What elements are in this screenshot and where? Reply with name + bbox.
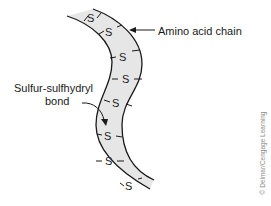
- diagram-canvas: S S S S S S S S Amino acid chain Sulfur-…: [0, 0, 271, 206]
- amino-acid-chain-callout: Amino acid chain: [129, 25, 242, 37]
- arrow-left-icon: [129, 27, 136, 33]
- bond-label-line2: bond: [45, 95, 69, 107]
- copyright-credit: © Delmar/Cengage Learning: [257, 108, 267, 198]
- sulfur-label: S: [125, 180, 132, 192]
- sulfur-label: S: [122, 73, 129, 85]
- amino-acid-chain-diagram: S S S S S S S S Amino acid chain Sulfur-…: [0, 0, 271, 206]
- credit-text: © Delmar/Cengage Learning: [259, 112, 266, 195]
- sulfur-label: S: [105, 155, 112, 167]
- sulfur-label: S: [119, 51, 126, 63]
- amino-acid-chain-label: Amino acid chain: [158, 25, 242, 37]
- bond-label-line1: Sulfur-sulfhydryl: [14, 82, 93, 94]
- sulfur-label: S: [87, 12, 94, 24]
- sulfur-label: S: [105, 26, 112, 38]
- sulfur-label: S: [104, 130, 111, 142]
- sulfur-label: S: [112, 97, 119, 109]
- sulfur-bond-callout: Sulfur-sulfhydryl bond: [14, 82, 108, 126]
